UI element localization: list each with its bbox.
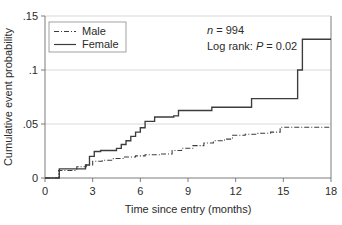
sample-size-annotation: n = 994	[207, 24, 244, 36]
chart-canvas: 0369121518 0.05.1.15 Time since entry (m…	[0, 0, 342, 225]
legend-label-female: Female	[82, 38, 119, 50]
x-tick-label-6: 18	[325, 185, 337, 197]
x-tick-label-5: 15	[277, 185, 289, 197]
x-tick-label-1: 3	[90, 185, 96, 197]
log-rank-annotation: Log rank: P = 0.02	[207, 40, 297, 52]
x-tick-label-0: 0	[42, 185, 48, 197]
x-axis-title: Time since entry (months)	[125, 203, 252, 215]
y-tick-label-2: .1	[29, 64, 38, 76]
y-axis-title: Cumulative event probability	[2, 27, 14, 166]
x-tick-label-4: 12	[230, 185, 242, 197]
y-tick-label-3: .15	[23, 10, 38, 22]
legend-label-male: Male	[82, 25, 106, 37]
log-rank-prefix: Log rank:	[207, 40, 256, 52]
sample-size-value: = 994	[213, 24, 244, 36]
figure-root: 0369121518 0.05.1.15 Time since entry (m…	[0, 0, 342, 225]
y-tick-label-0: 0	[32, 172, 38, 184]
y-tick-label-1: .05	[23, 118, 38, 130]
x-tick-label-2: 6	[137, 185, 143, 197]
legend: Male Female	[49, 22, 126, 52]
x-tick-label-3: 9	[185, 185, 191, 197]
cumulative-incidence-chart: 0369121518 0.05.1.15 Time since entry (m…	[0, 0, 342, 225]
log-rank-value: = 0.02	[263, 40, 297, 52]
